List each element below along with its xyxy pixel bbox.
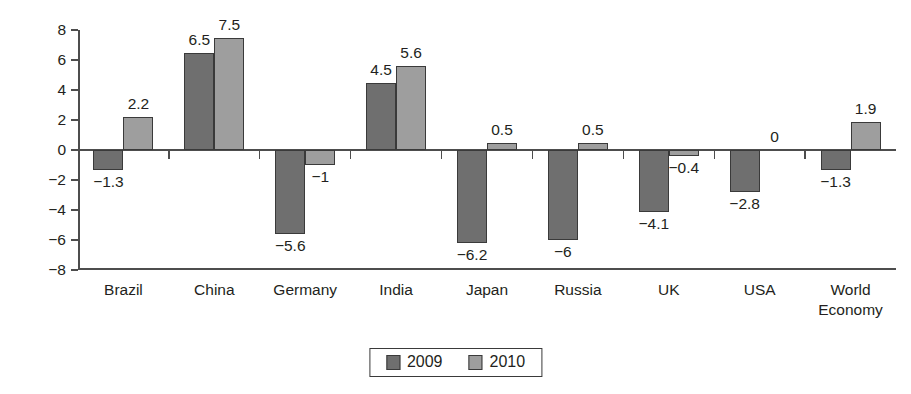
bar-world-economy-2009: [821, 150, 851, 170]
y-axis-tick: −4: [71, 209, 78, 210]
bar-value-label: 0.5: [475, 122, 529, 138]
bar-china-2009: [184, 53, 214, 151]
bar-value-label: 2.2: [111, 96, 165, 112]
bar-value-label: −1.3: [81, 174, 135, 190]
y-axis-tick-label: 4: [57, 82, 66, 98]
category-separator-tick: [623, 151, 624, 159]
y-axis-tick: −2: [71, 179, 78, 180]
bar-india-2010: [396, 66, 426, 150]
bar-value-label: −2.8: [718, 196, 772, 212]
bar-chart: 86420−2−4−6−8 −1.32.26.57.5−5.6−14.55.6−…: [0, 0, 911, 394]
bar-value-label: 7.5: [202, 17, 256, 33]
y-axis-tick-label: −4: [48, 202, 66, 218]
y-axis-tick: 4: [71, 89, 78, 90]
legend-item-2010[interactable]: 2010: [469, 354, 526, 370]
y-axis-tick: 6: [71, 59, 78, 60]
bar-brazil-2009: [93, 150, 123, 170]
chart-legend: 2009 2010: [369, 348, 542, 377]
y-axis-tick-label: 8: [57, 22, 66, 38]
bar-japan-2010: [487, 143, 517, 151]
bar-value-label: 0.5: [566, 122, 620, 138]
bar-value-label: −1: [293, 169, 347, 185]
bar-germany-2010: [305, 150, 335, 165]
bar-value-label: 1.9: [839, 101, 893, 117]
bar-germany-2009: [275, 150, 305, 234]
bar-brazil-2010: [123, 117, 153, 150]
bar-russia-2009: [548, 150, 578, 240]
legend-swatch-2010-icon: [469, 355, 483, 370]
bar-india-2009: [366, 83, 396, 151]
category-separator-tick: [168, 151, 169, 159]
legend-item-2009[interactable]: 2009: [386, 354, 443, 370]
y-axis-tick: 0: [71, 149, 78, 150]
bar-value-label: −0.4: [657, 160, 711, 176]
bar-value-label: −5.6: [263, 238, 317, 254]
category-separator-tick: [441, 151, 442, 159]
bar-world-economy-2010: [851, 122, 881, 151]
bar-uk-2010: [669, 150, 699, 156]
y-axis-tick-label: 2: [57, 112, 66, 128]
category-separator-tick: [532, 151, 533, 159]
category-separator-tick: [804, 151, 805, 159]
y-axis-tick-label: 6: [57, 52, 66, 68]
category-separator-tick: [259, 151, 260, 159]
bar-usa-2009: [730, 150, 760, 192]
bar-value-label: 0: [748, 129, 802, 145]
y-axis-tick-label: 0: [57, 142, 66, 158]
category-separator-tick: [350, 151, 351, 159]
plot-area: 86420−2−4−6−8 −1.32.26.57.5−5.6−14.55.6−…: [78, 30, 896, 270]
plot-bottom-border: [78, 268, 896, 270]
legend-label-2009: 2009: [407, 354, 443, 370]
bar-value-label: −4.1: [627, 216, 681, 232]
bar-russia-2010: [578, 143, 608, 151]
legend-swatch-2009-icon: [386, 355, 400, 370]
bar-value-label: 5.6: [384, 45, 438, 61]
legend-label-2010: 2010: [490, 354, 526, 370]
y-axis-tick: 8: [71, 29, 78, 30]
x-axis-label-world-economy: World Economy: [791, 280, 911, 320]
category-separator-tick: [714, 151, 715, 159]
y-axis-tick-label: −8: [48, 262, 66, 278]
bar-value-label: −6.2: [445, 247, 499, 263]
bar-value-label: −1.3: [809, 174, 863, 190]
y-axis-tick: −8: [71, 269, 78, 270]
bar-value-label: −6: [536, 244, 590, 260]
y-axis-tick-label: −2: [48, 172, 66, 188]
bar-japan-2009: [457, 150, 487, 243]
bar-china-2010: [214, 38, 244, 151]
y-axis-tick: 2: [71, 119, 78, 120]
y-axis-tick: −6: [71, 239, 78, 240]
y-axis-tick-label: −6: [48, 232, 66, 248]
